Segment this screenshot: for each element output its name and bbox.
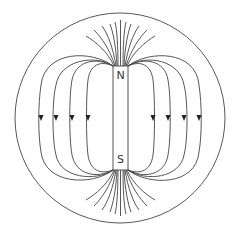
- right-field-loops: [128, 56, 201, 181]
- north-pole-label: N: [113, 69, 128, 82]
- left-field-loops: [39, 53, 113, 183]
- arrow-down-icon: [39, 115, 44, 121]
- magnetic-field-diagram: [0, 0, 238, 235]
- arrow-down-icon: [54, 115, 59, 121]
- arrow-down-icon: [166, 115, 171, 121]
- arrow-down-icon: [182, 115, 187, 121]
- south-pole-label: S: [113, 153, 128, 166]
- arrow-down-icon: [70, 115, 75, 121]
- arrow-down-icon: [197, 115, 202, 121]
